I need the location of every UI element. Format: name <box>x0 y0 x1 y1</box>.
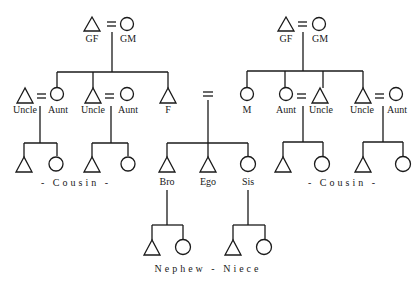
label-uncle: Uncle <box>350 104 374 115</box>
male-triangle-icon <box>84 17 100 31</box>
label-gf-paternal: GF <box>86 33 99 44</box>
kinship-diagram <box>0 0 420 281</box>
label-mother: M <box>243 104 252 115</box>
label-uncle: Uncle <box>309 104 333 115</box>
label-father: F <box>165 104 171 115</box>
label-aunt: Aunt <box>387 104 407 115</box>
female-circle-icon <box>121 18 134 31</box>
label-sister: Sis <box>242 176 254 187</box>
label-brother: Bro <box>160 176 175 187</box>
label-aunt: Aunt <box>118 104 138 115</box>
label-nephew-niece: Nephew - Niece <box>155 263 262 274</box>
label-gf-maternal: GF <box>280 33 293 44</box>
label-cousin-paternal: - Cousin - <box>41 177 111 188</box>
label-cousin-maternal: - Cousin - <box>308 177 378 188</box>
label-aunt: Aunt <box>276 104 296 115</box>
label-ego: Ego <box>200 176 216 187</box>
label-uncle: Uncle <box>81 104 105 115</box>
label-aunt: Aunt <box>48 104 68 115</box>
label-gm-paternal: GM <box>120 33 136 44</box>
label-uncle: Uncle <box>13 104 37 115</box>
label-gm-maternal: GM <box>312 33 328 44</box>
